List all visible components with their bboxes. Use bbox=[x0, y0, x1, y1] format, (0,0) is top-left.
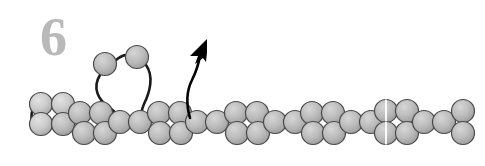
fiber-bead bbox=[375, 100, 398, 123]
fiber-bead bbox=[226, 122, 249, 145]
fiber-bead bbox=[73, 122, 96, 145]
fiber-bead bbox=[375, 122, 398, 145]
fiber-bead bbox=[69, 102, 92, 125]
fiber-bead bbox=[452, 122, 475, 145]
detached-nucleosome-left-bead bbox=[94, 53, 117, 76]
panel-number-label: 6 bbox=[40, 7, 67, 67]
figure-panel: 6 bbox=[0, 0, 485, 166]
fiber-bead bbox=[149, 122, 172, 145]
fiber-bead bbox=[302, 122, 325, 145]
detached-nucleosome-right-bead bbox=[126, 46, 149, 69]
diagram-canvas: 6 bbox=[0, 0, 485, 166]
fiber-bead bbox=[452, 100, 475, 123]
fiber-bead bbox=[30, 113, 53, 136]
